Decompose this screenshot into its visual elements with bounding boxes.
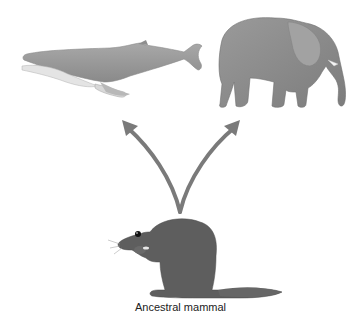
caption-ancestral-mammal: Ancestral mammal	[0, 301, 361, 313]
arrow-to-elephant	[180, 120, 240, 212]
evolution-diagram	[0, 0, 361, 319]
whale-icon	[22, 40, 202, 97]
elephant-icon	[219, 18, 346, 108]
arrow-to-whale	[122, 120, 180, 212]
rodent-icon	[108, 219, 282, 298]
